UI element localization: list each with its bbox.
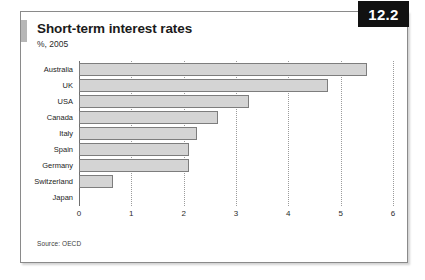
bar-row	[79, 111, 218, 124]
tick-label: 5	[338, 209, 342, 218]
gridline	[393, 61, 394, 206]
category-label: Australia	[44, 63, 73, 76]
category-label: Japan	[53, 191, 73, 204]
bar-row	[79, 127, 197, 140]
category-label: Spain	[54, 143, 73, 156]
category-label: Germany	[42, 159, 73, 172]
category-label: Switzerland	[34, 175, 73, 188]
bar-row	[79, 95, 249, 108]
category-label: Canada	[47, 111, 73, 124]
category-axis-labels: AustraliaUKUSACanadaItalySpainGermanySwi…	[21, 61, 76, 206]
value-axis-tick-labels: 0123456	[79, 209, 393, 221]
bar-spain	[79, 143, 189, 156]
bar-uk	[79, 79, 328, 92]
figure-panel: 12.2 Short-term interest rates %, 2005 A…	[20, 11, 408, 263]
tick-label: 6	[391, 209, 395, 218]
bar-usa	[79, 95, 249, 108]
category-label: Italy	[59, 127, 73, 140]
category-label: USA	[58, 95, 73, 108]
source-note: Source: OECD	[37, 240, 81, 247]
bar-row	[79, 175, 113, 188]
plot-area	[79, 61, 393, 206]
tick-label: 4	[286, 209, 290, 218]
bar-row	[79, 63, 367, 76]
bar-series	[79, 61, 393, 206]
chart-subtitle: %, 2005	[37, 39, 68, 49]
bar-germany	[79, 159, 189, 172]
tick-label: 0	[77, 209, 81, 218]
bar-switzerland	[79, 175, 113, 188]
title-accent-bar	[21, 20, 27, 42]
bar-australia	[79, 63, 367, 76]
figure-number-badge: 12.2	[358, 1, 409, 27]
tick-label: 1	[129, 209, 133, 218]
chart-title: Short-term interest rates	[37, 21, 192, 36]
tick-label: 3	[234, 209, 238, 218]
bar-canada	[79, 111, 218, 124]
bar-row	[79, 143, 189, 156]
bar-row	[79, 159, 189, 172]
bar-italy	[79, 127, 197, 140]
category-label: UK	[63, 79, 73, 92]
bar-row	[79, 79, 328, 92]
tick-label: 2	[181, 209, 185, 218]
